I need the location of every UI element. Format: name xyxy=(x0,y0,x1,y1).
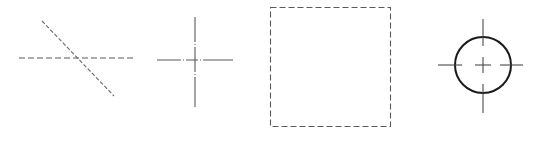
figure-center-line-cross xyxy=(157,17,236,117)
figure-dashed-intersecting-lines xyxy=(19,21,135,96)
dashed-rectangle xyxy=(271,8,391,127)
figure-circle-with-center-lines xyxy=(438,19,523,113)
figure-dashed-rectangle xyxy=(271,8,391,127)
line-types-diagram xyxy=(0,0,535,145)
